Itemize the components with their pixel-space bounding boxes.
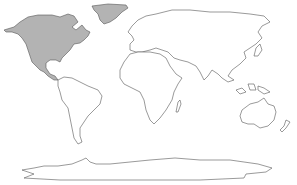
region-new-zealand[interactable] [280,120,290,132]
region-madagascar[interactable] [176,100,181,112]
region-australia[interactable] [240,98,276,128]
region-antarctica[interactable] [22,158,272,180]
region-africa[interactable] [120,52,182,124]
region-southeast-asia-islands[interactable] [236,84,270,94]
region-japan[interactable] [254,44,262,56]
region-greenland[interactable] [92,4,128,24]
region-north-america[interactable] [4,14,90,80]
world-map [0,0,297,185]
region-south-america[interactable] [58,77,102,144]
